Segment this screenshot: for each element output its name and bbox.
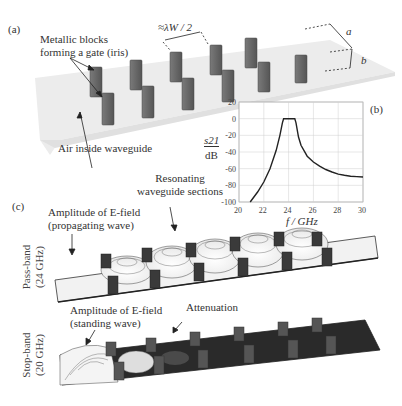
y-tick-label: 20 <box>219 98 236 107</box>
y-tick-label: -20 <box>219 131 236 140</box>
dimension-b-label: b <box>361 54 367 66</box>
panel-c-label: (c) <box>12 200 24 212</box>
x-tick-label: 22 <box>259 206 267 215</box>
propagating-label-line2: (propagating wave) <box>48 219 134 231</box>
y-tick-label: -100 <box>219 198 236 207</box>
y-tick-label: 0 <box>219 115 236 124</box>
x-axis-label: f / GHz <box>286 215 318 227</box>
resonating-label-line2: waveguide sections <box>120 185 240 197</box>
spacing-label: ≈λW / 2 <box>158 21 192 33</box>
propagating-label-line1: Amplitude of E-field <box>48 206 140 218</box>
resonating-label-line1: Resonating <box>125 172 235 184</box>
spacing-dimension <box>163 32 208 50</box>
figure-canvas <box>0 0 402 406</box>
y-axis-label-bottom: dB <box>205 149 218 161</box>
passband-label-line2: (24 GHz) <box>33 237 45 297</box>
panel-a-label: (a) <box>8 23 20 35</box>
x-tick-label: 20 <box>234 206 242 215</box>
y-axis-label-top: s21 <box>204 134 219 147</box>
x-tick-label: 26 <box>308 206 316 215</box>
attenuation-label: Attenuation <box>186 301 238 313</box>
x-tick-label: 24 <box>284 206 292 215</box>
x-tick-label: 28 <box>333 206 341 215</box>
stopband-label-line2: (20 GHz) <box>33 325 45 385</box>
passband-label-line1: Pass-band <box>20 237 32 297</box>
standing-label-line2: (standing wave) <box>70 317 141 329</box>
x-tick-label: 30 <box>358 206 366 215</box>
air-label: Air inside waveguide <box>58 142 152 154</box>
blocks-label-line1: Metallic blocks <box>40 33 108 45</box>
s21-chart <box>239 102 363 202</box>
y-tick-label: -40 <box>219 148 236 157</box>
panel-b-label: (b) <box>370 103 383 115</box>
stopband-label-line1: Stop-band <box>20 325 32 385</box>
standing-label-line1: Amplitude of E-field <box>70 304 162 316</box>
blocks-label-line2: forming a gate (iris) <box>40 46 128 58</box>
dimension-a-label: a <box>346 25 352 37</box>
